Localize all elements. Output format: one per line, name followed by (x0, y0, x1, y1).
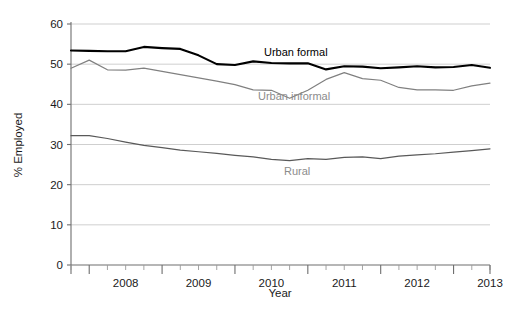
series-line-rural (71, 136, 490, 161)
series-label-rural: Rural (284, 165, 310, 177)
chart-figure: 0102030405060 200820092010201120122013 U… (0, 0, 508, 310)
series-annotations-group: Urban formalUrban informalRural (258, 46, 330, 177)
y-tick-label-20: 20 (50, 179, 63, 191)
series-label-urban-informal: Urban informal (258, 90, 330, 102)
y-tick-label-40: 40 (50, 98, 63, 110)
x-tick-label-2008: 2008 (113, 277, 139, 289)
tick-marks-group (67, 24, 490, 274)
x-tick-label-2012: 2012 (404, 277, 430, 289)
y-axis-title: % Employed (12, 113, 24, 178)
y-tick-label-30: 30 (50, 139, 63, 151)
line-chart: 0102030405060 200820092010201120122013 U… (0, 0, 508, 310)
axes-group (71, 22, 490, 274)
x-tick-labels-group: 200820092010201120122013 (113, 277, 503, 289)
series-label-urban-formal: Urban formal (264, 46, 328, 58)
y-tick-labels-group: 0102030405060 (50, 18, 63, 271)
y-tick-label-10: 10 (50, 219, 63, 231)
y-tick-label-0: 0 (57, 259, 63, 271)
x-tick-label-2013: 2013 (477, 277, 503, 289)
y-tick-label-50: 50 (50, 58, 63, 70)
x-tick-label-2009: 2009 (186, 277, 212, 289)
y-tick-label-60: 60 (50, 18, 63, 30)
x-axis-title: Year (268, 287, 291, 299)
x-tick-label-2011: 2011 (332, 277, 357, 289)
